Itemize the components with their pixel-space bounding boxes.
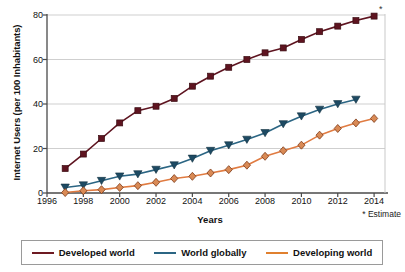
- legend-color-swatch: [266, 252, 288, 254]
- data-point-0-5: [153, 103, 159, 109]
- data-point-0-6: [171, 95, 177, 101]
- data-point-0-8: [208, 73, 214, 79]
- x-tick-label-2010: 2010: [291, 196, 311, 206]
- estimate-asterisk-marker: *: [379, 5, 383, 13]
- x-tick-label-2006: 2006: [219, 196, 239, 206]
- data-point-0-1: [80, 151, 86, 157]
- chart-plot-container: Internet Users (per 100 Inhabitants) 020…: [0, 0, 405, 232]
- x-tick-label-1996: 1996: [37, 196, 57, 206]
- data-point-0-7: [189, 83, 195, 89]
- data-point-0-11: [262, 50, 268, 56]
- legend-color-swatch: [154, 252, 176, 254]
- x-tick-label-2012: 2012: [328, 196, 348, 206]
- data-point-0-0: [62, 166, 68, 172]
- x-tick-label-2014: 2014: [364, 196, 384, 206]
- legend-label: Developing world: [293, 247, 372, 258]
- data-point-0-17: [371, 13, 377, 19]
- x-tick-label-2004: 2004: [182, 196, 202, 206]
- x-tick-label-1998: 1998: [73, 196, 93, 206]
- data-point-0-16: [353, 18, 359, 24]
- chart-legend: Developed worldWorld globallyDeveloping …: [21, 240, 383, 265]
- x-axis-title: Years: [55, 214, 365, 225]
- data-point-0-13: [298, 36, 304, 42]
- x-tick-label-2002: 2002: [146, 196, 166, 206]
- legend-label: Developed world: [59, 247, 135, 258]
- x-tick-label-2008: 2008: [255, 196, 275, 206]
- data-point-0-10: [244, 57, 250, 63]
- x-tick-label-2000: 2000: [110, 196, 130, 206]
- data-point-0-9: [226, 64, 232, 70]
- legend-item-developing-world[interactable]: Developing world: [266, 247, 372, 258]
- estimate-note: * Estimate: [362, 209, 401, 219]
- data-point-0-3: [117, 120, 123, 126]
- data-point-0-14: [317, 29, 323, 35]
- data-point-0-2: [99, 135, 105, 141]
- chart-figure: Internet Users (per 100 Inhabitants) 020…: [0, 0, 405, 272]
- data-point-0-15: [335, 23, 341, 29]
- legend-color-swatch: [32, 252, 54, 254]
- legend-label: World globally: [181, 247, 246, 258]
- data-point-0-12: [280, 45, 286, 51]
- data-point-0-4: [135, 108, 141, 114]
- legend-item-developed-world[interactable]: Developed world: [32, 247, 135, 258]
- legend-item-world-globally[interactable]: World globally: [154, 247, 246, 258]
